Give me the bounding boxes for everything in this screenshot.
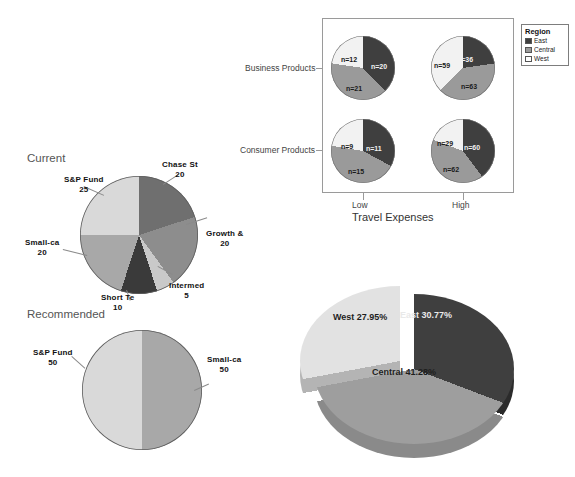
mini-pie-consumer-low-east-label: n=11 [366,145,382,152]
recommended-label-sp-value: 50 [48,358,57,367]
y-tick-consumer [316,150,323,151]
current-label-short: Short Te 10 [101,293,134,313]
mini-pie-consumer-high-central-label: n=62 [443,166,459,173]
legend-swatch-west [525,56,532,62]
current-label-short-name: Short Te [101,293,134,302]
mini-pie-consumer-low-central-label: n=15 [348,168,364,175]
leader-rec-sp [71,356,85,369]
recommended-pie [82,330,202,450]
legend-swatch-east [525,38,532,44]
y-tick-label-consumer: Consumer Products [240,145,315,155]
current-label-short-value: 10 [113,303,122,312]
recommended-chart-title: Recommended [27,308,105,320]
current-label-chase-name: Chase St [162,160,198,169]
x-tick-low [363,193,364,200]
legend-label-west: West [534,55,549,63]
current-label-intermed-value: 5 [184,291,189,300]
pie3d-slice-west [300,286,500,436]
recommended-label-smallca-value: 50 [220,365,229,374]
current-label-chase-value: 20 [175,170,184,179]
mini-pie-consumer-high-west-label: n=29 [437,140,453,147]
current-label-sp-value: 25 [79,185,88,194]
current-label-growth-name: Growth & [206,229,244,238]
pie3d-label-west: West 27.95% [333,312,387,322]
pie3d-chart: East 30.77% Central 41.28% West 27.95% [300,262,565,467]
current-label-smallca-name: Small-ca [25,238,60,247]
x-axis-title: Travel Expenses [352,211,434,223]
current-label-smallca-value: 20 [38,248,47,257]
current-label-growth: Growth & 20 [206,229,244,249]
legend-item-central[interactable]: Central [525,46,565,54]
current-label-sp: S&P Fund 25 [64,175,104,195]
recommended-label-smallca: Small-ca 50 [207,355,242,375]
legend-item-west[interactable]: West [525,55,565,63]
region-legend[interactable]: Region East Central West [521,24,569,66]
mini-pie-business-high-central-label: n=63 [461,83,477,90]
recommended-label-smallca-name: Small-ca [207,355,242,364]
x-tick-label-low: Low [352,200,368,210]
legend-swatch-central [525,47,532,53]
figure-canvas: Business Products Consumer Products Low … [0,0,575,477]
current-label-chase: Chase St 20 [162,160,198,180]
mini-pie-business-low-east-label: n=20 [371,63,387,70]
current-label-growth-value: 20 [220,239,229,248]
mini-pie-consumer-high-east-label: n=60 [464,144,480,151]
mini-pie-business-low-central-label: n=21 [346,85,362,92]
mini-pie-consumer-low-west-label: n=9 [341,143,353,150]
mini-pie-business-high-west-label: n=59 [434,62,450,69]
legend-title: Region [525,27,565,36]
mini-pie-consumer-high [431,119,495,183]
legend-label-central: Central [534,46,555,54]
current-chart-title: Current [27,152,65,164]
mini-pie-business-low-west-label: n=12 [341,56,357,63]
current-label-sp-name: S&P Fund [64,175,104,184]
current-label-intermed-name: Intermed [169,281,204,290]
mini-pie-business-high-east-label: n=36 [457,56,473,63]
recommended-label-sp: S&P Fund 50 [33,348,73,368]
legend-item-east[interactable]: East [525,37,565,45]
recommended-label-sp-name: S&P Fund [33,348,73,357]
y-tick-label-business: Business Products [245,63,315,73]
pie3d-label-central: Central 41.28% [372,367,436,377]
current-label-intermed: Intermed 5 [169,281,204,301]
y-tick-business [316,68,323,69]
current-label-smallca: Small-ca 20 [25,238,60,258]
x-tick-high [463,193,464,200]
pie3d-label-east: East 30.77% [400,310,452,320]
x-tick-label-high: High [452,200,469,210]
legend-label-east: East [534,37,547,45]
